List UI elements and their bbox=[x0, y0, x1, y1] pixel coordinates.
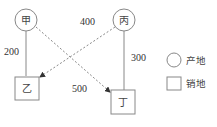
node-yi: 乙 bbox=[15, 77, 39, 100]
legend-destination-icon bbox=[167, 77, 181, 90]
legend-destination-label: 销地 bbox=[186, 78, 206, 89]
node-jia-label: 甲 bbox=[21, 15, 31, 26]
legend: 产地 销地 bbox=[167, 53, 206, 90]
node-bing-label: 丙 bbox=[119, 15, 129, 26]
edge-bing-yi bbox=[40, 27, 115, 77]
legend-origin-label: 产地 bbox=[186, 55, 206, 66]
edge-label-bing-ding: 300 bbox=[131, 52, 146, 63]
transport-diagram: 甲 丙 乙 丁 200 400 500 300 产地 销地 bbox=[0, 0, 217, 127]
node-ding: 丁 bbox=[111, 90, 135, 114]
edge-label-bing-yi: 400 bbox=[80, 16, 95, 27]
legend-origin-icon bbox=[167, 53, 181, 67]
node-jia: 甲 bbox=[15, 9, 37, 31]
node-yi-label: 乙 bbox=[22, 83, 32, 94]
edge-label-jia-ding: 500 bbox=[72, 83, 87, 94]
node-bing: 丙 bbox=[113, 9, 135, 31]
node-ding-label: 丁 bbox=[118, 97, 128, 108]
edge-label-jia-yi: 200 bbox=[4, 46, 19, 57]
